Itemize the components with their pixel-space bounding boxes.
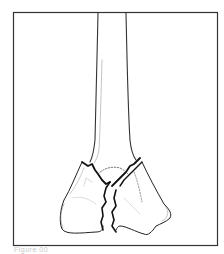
fracture-illustration: [0, 0, 224, 254]
bone-shaft: [90, 13, 136, 163]
figure-frame: [14, 13, 218, 246]
figure-caption: Figure 00: [14, 246, 48, 253]
fracture-lines: [82, 158, 142, 232]
